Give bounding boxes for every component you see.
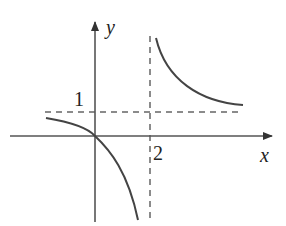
y-tick-label: 1 bbox=[74, 88, 84, 110]
graph-figure: y x 1 2 bbox=[0, 0, 286, 226]
curve-left-branch bbox=[46, 118, 138, 220]
graph-canvas: y x 1 2 bbox=[0, 0, 286, 226]
y-axis-label: y bbox=[104, 16, 115, 39]
x-tick-label: 2 bbox=[153, 142, 163, 164]
x-axis-label: x bbox=[259, 144, 269, 166]
curve-right-branch bbox=[156, 38, 243, 105]
